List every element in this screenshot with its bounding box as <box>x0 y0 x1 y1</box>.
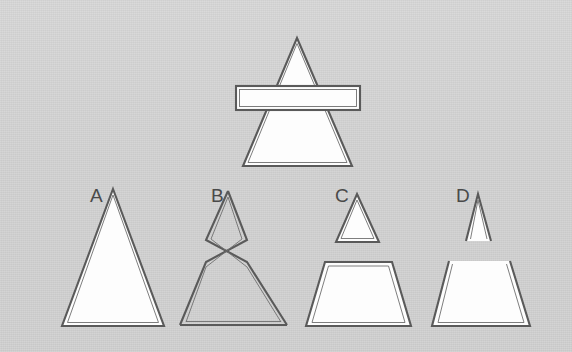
option-d[interactable]: D <box>432 185 530 326</box>
option-c-label: C <box>335 185 349 206</box>
prompt-figure <box>236 38 360 166</box>
puzzle-canvas: A B C <box>0 0 572 352</box>
option-c-trapezoid <box>306 262 411 326</box>
option-d-trapezoid-open <box>432 261 530 326</box>
option-c[interactable]: C <box>306 185 411 326</box>
option-a-triangle <box>62 189 164 326</box>
option-d-label: D <box>456 185 470 206</box>
horizontal-bar <box>236 86 360 110</box>
option-b-crossed-shape <box>180 191 287 325</box>
option-a-label: A <box>90 185 103 206</box>
option-b[interactable]: B <box>180 185 287 325</box>
option-a[interactable]: A <box>62 185 164 326</box>
puzzle-figure: A B C <box>0 0 572 352</box>
option-d-small-triangle-open <box>466 194 491 241</box>
